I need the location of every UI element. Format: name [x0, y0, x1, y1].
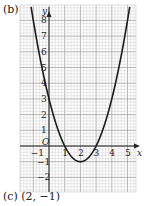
svg-text:3: 3	[41, 94, 47, 104]
svg-text:1: 1	[41, 125, 47, 135]
svg-text:2: 2	[78, 148, 84, 158]
svg-text:8: 8	[41, 15, 47, 25]
svg-text:O: O	[42, 137, 50, 147]
svg-text:7: 7	[41, 31, 47, 41]
svg-text:5: 5	[125, 148, 131, 158]
svg-text:4: 4	[109, 148, 115, 158]
svg-text:x: x	[137, 148, 142, 158]
svg-text:6: 6	[41, 47, 47, 57]
svg-text:y: y	[41, 6, 48, 16]
answer-caption: (c) (2, −1)	[3, 190, 60, 203]
svg-text:2: 2	[41, 110, 47, 120]
svg-text:−1: −1	[37, 157, 50, 167]
svg-text:−2: −2	[37, 172, 50, 182]
graph: −112345−2−112345678Oxy	[0, 0, 144, 206]
